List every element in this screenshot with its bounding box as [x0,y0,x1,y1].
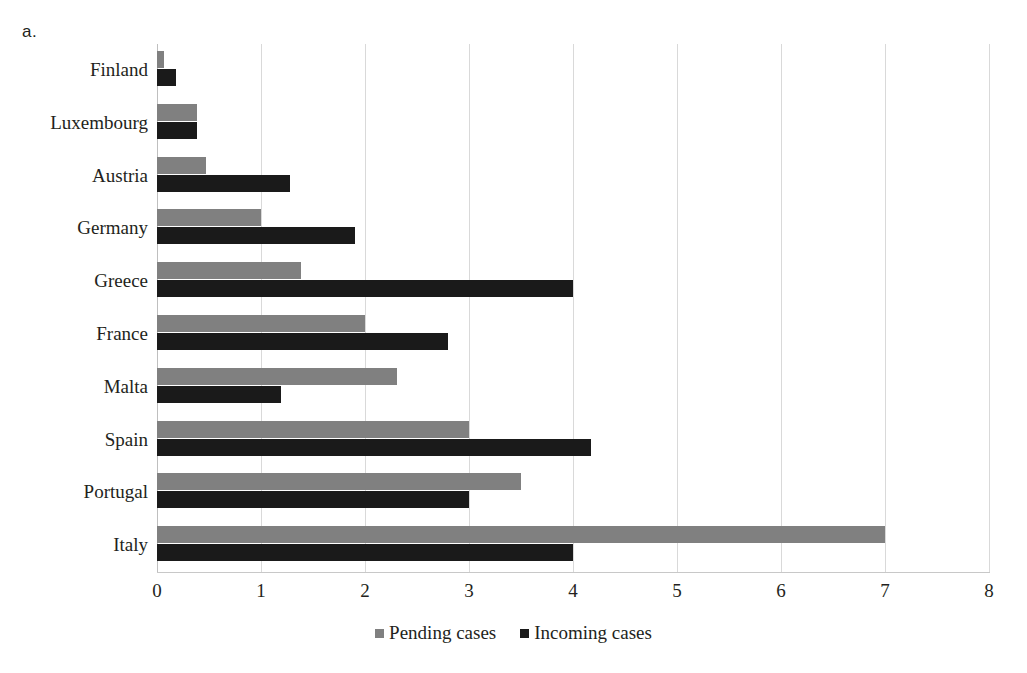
bar-incoming-cases-portugal[interactable] [157,491,469,508]
bar-incoming-cases-greece[interactable] [157,280,573,297]
bar-incoming-cases-germany[interactable] [157,227,355,244]
x-tick-label: 8 [969,580,1009,602]
category-label-luxembourg: Luxembourg [0,112,148,134]
x-axis-baseline [157,572,990,573]
gridline-8 [989,44,990,572]
chart-category-row [157,202,989,255]
legend-item-pending-cases[interactable]: Pending cases [375,622,496,644]
x-tick-label: 6 [761,580,801,602]
bar-pending-cases-spain[interactable] [157,421,469,438]
bar-incoming-cases-italy[interactable] [157,544,573,561]
chart-category-row [157,44,989,97]
bar-pending-cases-luxembourg[interactable] [157,104,197,121]
chart-category-row [157,361,989,414]
chart-legend: Pending casesIncoming cases [0,622,1027,644]
x-tick-label: 4 [553,580,593,602]
chart-category-row [157,466,989,519]
bar-incoming-cases-austria[interactable] [157,175,290,192]
x-tick-label: 5 [657,580,697,602]
bar-incoming-cases-luxembourg[interactable] [157,122,197,139]
category-label-germany: Germany [0,217,148,239]
legend-swatch-icon [375,629,384,638]
chart-category-row [157,308,989,361]
x-tick-label: 1 [241,580,281,602]
bar-pending-cases-portugal[interactable] [157,473,521,490]
chart-figure: a. FinlandLuxembourgAustriaGermanyGreece… [0,0,1027,673]
bar-pending-cases-italy[interactable] [157,526,885,543]
x-tick-label: 7 [865,580,905,602]
legend-swatch-icon [520,629,529,638]
category-label-france: France [0,323,148,345]
panel-letter-label: a. [22,22,37,42]
bar-pending-cases-malta[interactable] [157,368,397,385]
category-label-spain: Spain [0,429,148,451]
legend-label: Pending cases [389,622,496,644]
plot-area [157,44,989,572]
category-label-austria: Austria [0,165,148,187]
legend-item-incoming-cases[interactable]: Incoming cases [520,622,652,644]
x-tick-label: 3 [449,580,489,602]
bar-pending-cases-germany[interactable] [157,209,261,226]
category-label-greece: Greece [0,270,148,292]
bar-pending-cases-austria[interactable] [157,157,206,174]
bar-incoming-cases-finland[interactable] [157,69,176,86]
chart-category-row [157,97,989,150]
chart-category-row [157,255,989,308]
x-tick-label: 0 [137,580,177,602]
chart-category-row [157,414,989,467]
bar-incoming-cases-spain[interactable] [157,439,591,456]
chart-category-row [157,519,989,572]
bar-incoming-cases-malta[interactable] [157,386,281,403]
legend-label: Incoming cases [534,622,652,644]
category-label-italy: Italy [0,534,148,556]
bar-pending-cases-france[interactable] [157,315,365,332]
chart-category-row [157,150,989,203]
bar-pending-cases-finland[interactable] [157,51,164,68]
bar-incoming-cases-france[interactable] [157,333,448,350]
category-label-portugal: Portugal [0,481,148,503]
x-tick-label: 2 [345,580,385,602]
category-label-finland: Finland [0,59,148,81]
bar-pending-cases-greece[interactable] [157,262,301,279]
category-label-malta: Malta [0,376,148,398]
